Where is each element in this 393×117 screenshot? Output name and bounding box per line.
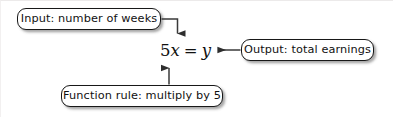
callout-output: Output: total earnings — [241, 39, 374, 61]
callout-function-rule-label: Function rule: multiply by 5 — [61, 90, 223, 101]
callout-input: Input: number of weeks — [17, 8, 161, 30]
function-annotation-diagram: 5x=y Input: number of weeks Output: tota… — [0, 0, 393, 117]
equation-coefficient: 5 — [160, 41, 171, 60]
callout-input-label: Input: number of weeks — [19, 13, 160, 24]
callout-function-rule: Function rule: multiply by 5 — [61, 85, 223, 107]
equation-operator: = — [180, 41, 202, 60]
equation-input-variable: x — [171, 41, 180, 60]
equation: 5x=y — [160, 40, 211, 60]
callout-output-label: Output: total earnings — [242, 44, 373, 55]
equation-output-variable: y — [202, 41, 211, 60]
arrow-input-to-variable — [162, 19, 178, 34]
